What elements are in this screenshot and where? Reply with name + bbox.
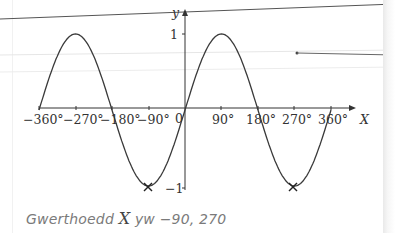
x-tick-label: −180° (100, 112, 141, 127)
answer-prefix: Gwerthoedd (26, 211, 119, 227)
x-tick-label: 90° (212, 112, 234, 127)
x-tick-label: −270° (63, 112, 104, 127)
pointer-line (297, 53, 395, 55)
page-fold-shadow (383, 0, 395, 233)
origin-label: 0 (175, 111, 183, 126)
x-tick-label: 360° (318, 112, 348, 127)
x-axis-arrow-icon (349, 105, 356, 111)
ruled-line (0, 4, 395, 19)
x-tick-label: 270° (282, 112, 312, 127)
x-axis-label: X (359, 112, 370, 127)
x-tick-label: 180° (246, 112, 276, 127)
x-tick-label: −360° (23, 112, 64, 127)
cross-marker-minus-90 (144, 183, 152, 191)
cross-marker-270 (289, 183, 297, 191)
y-tick-label-1: 1 (170, 27, 178, 42)
sine-graph: y 1 −1 0 X −360° −270° −180° −90° 90° 18… (0, 0, 395, 233)
x-tick-label: −90° (137, 112, 170, 127)
answer-text: Gwerthoedd X yw −90, 270 (26, 209, 226, 228)
y-tick-label-minus-1: −1 (165, 181, 183, 196)
answer-suffix: yw −90, 270 (130, 211, 226, 227)
y-axis-label: y (171, 5, 180, 20)
answer-variable: X (119, 209, 131, 228)
